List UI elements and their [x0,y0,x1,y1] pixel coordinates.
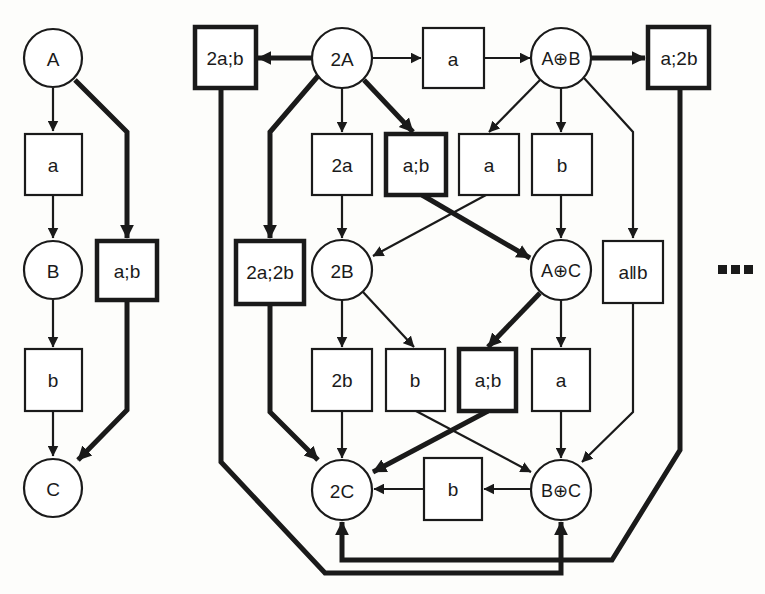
edge-AplusC-ab2 [488,293,540,347]
edge-2A-2a2b [270,76,318,238]
transition-b-bottom-label: b [448,479,459,500]
transition-a-2b-label: a;2b [661,48,698,69]
transition-a-top-label: a [448,49,459,70]
place-B-plus-C-label: B⊕C [541,481,581,501]
place-B-label: B [47,261,60,282]
transition-a-mid-label: a [484,155,495,176]
edge-2a2b-2C [270,304,318,460]
place-A-plus-C-label: A⊕C [541,261,581,281]
transition-a-par-b-label: a‖b [619,262,648,283]
transition-b-low-label: b [410,370,421,391]
place-A-label: A [47,49,60,70]
place-A-plus-B-label: A⊕B [541,49,580,69]
transition-a-b-2-label: a;b [475,370,501,391]
transition-a-low-label: a [556,370,567,391]
edge-AplusB-a [489,80,540,132]
edge-ab1-AplusC [422,195,530,258]
place-2B-label: 2B [330,261,353,282]
edge-ab-C [78,300,127,460]
transition-2a-label: 2a [331,155,353,176]
transition-ab-label: a;b [114,261,140,282]
transition-2a-b-label: 2a;b [207,48,244,69]
transition-2a-2b-label: 2a;2b [246,262,294,283]
transition-b-label: b [48,370,59,391]
place-C-label: C [46,479,60,500]
place-2C-label: 2C [330,481,354,502]
edge-a-2B [373,195,486,256]
transition-b-mid-label: b [557,155,568,176]
edge-2A-ab1 [364,80,413,132]
place-2A-label: 2A [330,49,354,70]
transition-a-b-1-label: a;b [403,155,429,176]
left-net: A a B a;b b C [24,29,157,517]
right-net: 2a;b 2A a A⊕B a;2b 2a a;b a b 2a;2b 2B A… [195,27,709,573]
ellipsis-icon [718,265,753,274]
transition-a-label: a [48,155,59,176]
petri-net-diagram: A a B a;b b C [0,0,765,594]
edge-2B-b [363,292,414,347]
transition-2b-label: 2b [331,370,352,391]
